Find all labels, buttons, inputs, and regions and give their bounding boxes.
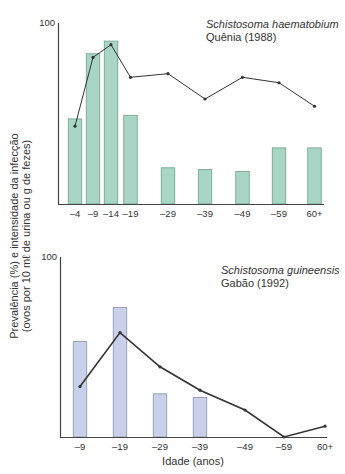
bar-–14 — [104, 41, 118, 204]
x-axis-label: Idade (anos) — [162, 455, 224, 467]
x-tick-label: –4 — [70, 208, 81, 219]
bars — [73, 307, 207, 437]
point-60+ — [323, 425, 326, 428]
point-–59 — [277, 81, 280, 84]
point-–29 — [166, 72, 169, 75]
y-tick-100: 100 — [41, 251, 57, 262]
bar-–29 — [153, 394, 167, 437]
point-–29 — [158, 365, 161, 368]
x-tick-label: –59 — [276, 441, 292, 452]
x-tick-label: –39 — [197, 208, 213, 219]
point-–49 — [243, 408, 246, 411]
x-tick-label: –59 — [271, 208, 287, 219]
point-–9 — [91, 56, 94, 59]
bars — [68, 41, 321, 204]
point-–9 — [78, 385, 81, 388]
chart-subtitle: Quênia (1988) — [206, 31, 276, 43]
x-tick-label: –49 — [237, 441, 253, 452]
x-tick-label: –19 — [123, 208, 139, 219]
point-–4 — [73, 125, 76, 128]
bar-–39 — [193, 397, 207, 437]
bar-–19 — [113, 307, 127, 437]
chart-guineensis: 100 –9–19–29–39–49–5960+ Schistosoma gui… — [41, 251, 340, 452]
figure: 100 –4–9–14–19–29–39–49–5960+ Schistosom… — [0, 0, 345, 474]
point-–39 — [198, 389, 201, 392]
chart-title: Schistosoma guineensis — [221, 264, 340, 276]
point-–19 — [118, 331, 121, 334]
x-tick-labels: –4–9–14–19–29–39–49–5960+ — [70, 208, 323, 219]
x-tick-labels: –9–19–29–39–49–5960+ — [75, 441, 334, 452]
x-tick-label: –39 — [192, 441, 208, 452]
point-–14 — [109, 43, 112, 46]
bar-–4 — [68, 119, 82, 204]
bar-–39 — [198, 170, 212, 204]
chart-title: Schistosoma haematobium — [206, 18, 339, 30]
y-axis-label: Prevalência (%) e intensidade da infecçã… — [8, 133, 32, 338]
x-tick-label: –9 — [88, 208, 99, 219]
x-tick-label: –19 — [112, 441, 128, 452]
x-tick-label: 60+ — [317, 441, 334, 452]
y-axis-label-line1: Prevalência (%) e intensidade da infecçã… — [8, 133, 20, 338]
x-tick-label: 60+ — [306, 208, 323, 219]
y-tick-100: 100 — [39, 17, 55, 28]
x-tick-label: –49 — [235, 208, 251, 219]
point-–19 — [129, 76, 132, 79]
bar-–29 — [161, 168, 175, 204]
x-tick-label: –29 — [152, 441, 168, 452]
point-60+ — [313, 105, 316, 108]
bar-60+ — [308, 148, 322, 204]
bar-–49 — [236, 171, 250, 204]
point-–49 — [241, 76, 244, 79]
bar-–9 — [73, 342, 87, 437]
bar-–59 — [272, 148, 286, 204]
chart-subtitle: Gabão (1992) — [221, 277, 289, 289]
y-axis-label-line2: (ovos por 10 mℓ de urina ou g de fezes) — [20, 140, 32, 333]
bar-–19 — [124, 115, 138, 204]
point-–39 — [203, 97, 206, 100]
x-tick-label: –29 — [160, 208, 176, 219]
x-tick-label: –9 — [75, 441, 86, 452]
chart-haematobium: 100 –4–9–14–19–29–39–49–5960+ Schistosom… — [39, 17, 339, 219]
x-tick-label: –14 — [103, 208, 119, 219]
